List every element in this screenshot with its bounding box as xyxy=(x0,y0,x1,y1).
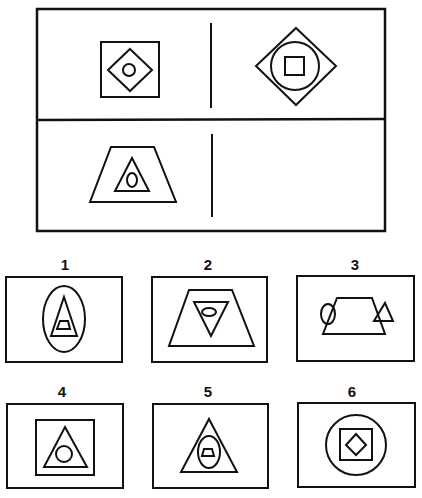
option-5-label: 5 xyxy=(193,383,223,400)
puzzle-figure xyxy=(0,0,422,498)
cell-bottom-left-figure xyxy=(90,147,176,202)
option-3-box[interactable] xyxy=(297,276,414,361)
option-6-figure[interactable] xyxy=(298,403,415,487)
option-1-label: 1 xyxy=(50,256,80,273)
option-5-box[interactable] xyxy=(153,404,268,488)
option-5-figure[interactable] xyxy=(153,404,268,488)
cell-top-right-figure xyxy=(256,28,336,105)
option-4-figure[interactable] xyxy=(7,404,123,488)
option-4-label: 4 xyxy=(47,383,77,400)
cell-top-left-figure xyxy=(101,42,159,97)
option-2-figure[interactable] xyxy=(152,277,267,362)
option-2-label: 2 xyxy=(193,256,223,273)
matrix-horizontal-divider xyxy=(37,119,385,120)
option-3-label: 3 xyxy=(340,256,370,273)
option-3-figure[interactable] xyxy=(297,276,414,361)
option-1-box[interactable] xyxy=(6,277,122,362)
option-1-figure[interactable] xyxy=(6,277,122,362)
option-6-label: 6 xyxy=(337,383,367,400)
